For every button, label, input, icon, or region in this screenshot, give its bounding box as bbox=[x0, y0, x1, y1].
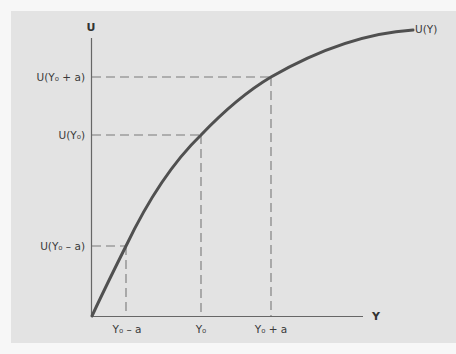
utility-curve bbox=[92, 30, 413, 316]
reference-lines bbox=[92, 77, 271, 316]
y-axis-label: U bbox=[87, 21, 96, 34]
curve-label: U(Y) bbox=[415, 23, 437, 35]
axes bbox=[91, 38, 363, 317]
x-tick-mid: Y₀ bbox=[195, 323, 207, 335]
x-tick-high: Y₀ + a bbox=[254, 323, 288, 335]
y-tick-high: U(Y₀ + a) bbox=[37, 71, 85, 83]
x-tick-low: Y₀ – a bbox=[112, 323, 142, 335]
x-axis-label: Y bbox=[371, 310, 381, 323]
y-tick-mid: U(Y₀) bbox=[58, 129, 85, 141]
utility-chart: U Y U(Y) U(Y₀ + a) U(Y₀) U(Y₀ – a) Y₀ – … bbox=[0, 0, 456, 354]
y-tick-low: U(Y₀ – a) bbox=[40, 240, 85, 252]
